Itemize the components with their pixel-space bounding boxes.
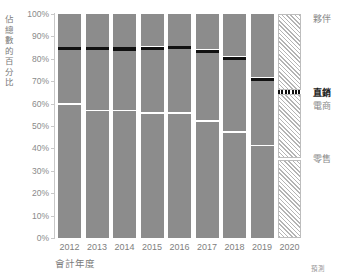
segment-partner [113,14,136,47]
segment-partner [251,14,274,77]
bar-2012 [58,14,81,238]
y-tick-mark [51,193,55,194]
segment-retail [141,114,164,238]
y-tick-label: 70% [32,76,49,86]
y-tick-label: 20% [32,188,49,198]
x-tick-label-2013: 2013 [82,242,112,252]
legend-item-direct: 直銷 [313,86,331,99]
segment-partner [58,14,81,47]
segment-ecommerce [223,60,246,131]
x-tick-label-2015: 2015 [137,242,167,252]
y-axis-title: 佔總數的百分比 [2,14,16,88]
bar-2013 [86,14,109,238]
x-tick-label-2018: 2018 [220,242,250,252]
x-tick-label-2019: 2019 [247,242,277,252]
segment-direct [86,47,109,50]
segment-retail [168,114,191,238]
segment-retail [278,160,301,238]
y-tick-label: 60% [32,99,49,109]
y-tick-label: 30% [32,166,49,176]
bar-2014 [113,14,136,238]
y-tick-label: 80% [32,54,49,64]
legend-item-partner: 夥伴 [313,12,331,25]
y-tick-mark [51,238,55,239]
segment-partner [86,14,109,47]
bar-2019 [251,14,274,238]
bar-2016 [168,14,191,238]
segment-partner [141,14,164,46]
segment-ecommerce [141,50,164,112]
y-tick-mark [51,216,55,217]
segment-ecommerce [86,50,109,110]
y-tick-mark [51,126,55,127]
x-tick-label-2020: 2020 [275,242,305,252]
y-tick-mark [51,148,55,149]
segment-ecommerce [58,50,81,103]
segment-retail [113,111,136,238]
segment-partner [196,14,219,49]
y-tick-label: 50% [32,121,49,131]
y-tick-label: 100% [27,9,49,19]
segment-direct [168,46,191,49]
x-tick-label-2016: 2016 [165,242,195,252]
segment-direct [223,57,246,60]
segment-retail [251,146,274,238]
segment-partner [223,14,246,56]
segment-retail [86,111,109,238]
y-tick-mark [51,104,55,105]
plot-area: 100%90%80%70%60%50%40%30%20%10%0% [55,14,303,238]
bar-2018 [223,14,246,238]
segment-direct [251,78,274,81]
bar-2015 [141,14,164,238]
segment-direct [196,50,219,53]
y-tick-mark [51,36,55,37]
x-tick-label-2014: 2014 [110,242,140,252]
forecast-note: 預測 [311,263,325,273]
segment-ecommerce [251,81,274,144]
stacked-bar-chart: 佔總數的百分比 100%90%80%70%60%50%40%30%20%10%0… [0,0,354,278]
y-tick-label: 10% [32,211,49,221]
segment-direct [141,47,164,50]
segment-direct [278,90,301,93]
segment-direct [113,47,136,50]
segment-ecommerce [168,49,191,112]
segment-ecommerce [278,94,301,158]
x-tick-label-2017: 2017 [192,242,222,252]
segment-retail [58,105,81,238]
segment-partner [278,14,301,90]
segment-partner [168,14,191,46]
y-tick-label: 90% [32,31,49,41]
bar-2020 [278,14,301,238]
x-axis-title: 會計年度 [55,256,95,270]
bar-2017 [196,14,219,238]
y-tick-mark [51,59,55,60]
legend-item-ecommerce: 電商 [313,99,331,112]
y-tick-mark [51,14,55,15]
legend-item-retail: 零售 [313,152,331,165]
segment-retail [196,122,219,238]
segment-ecommerce [113,51,136,110]
x-tick-label-2012: 2012 [55,242,85,252]
segment-retail [223,133,246,238]
y-tick-label: 0% [37,233,49,243]
segment-direct [58,47,81,50]
segment-ecommerce [196,53,219,120]
y-tick-label: 40% [32,143,49,153]
y-tick-mark [51,81,55,82]
y-tick-mark [51,171,55,172]
